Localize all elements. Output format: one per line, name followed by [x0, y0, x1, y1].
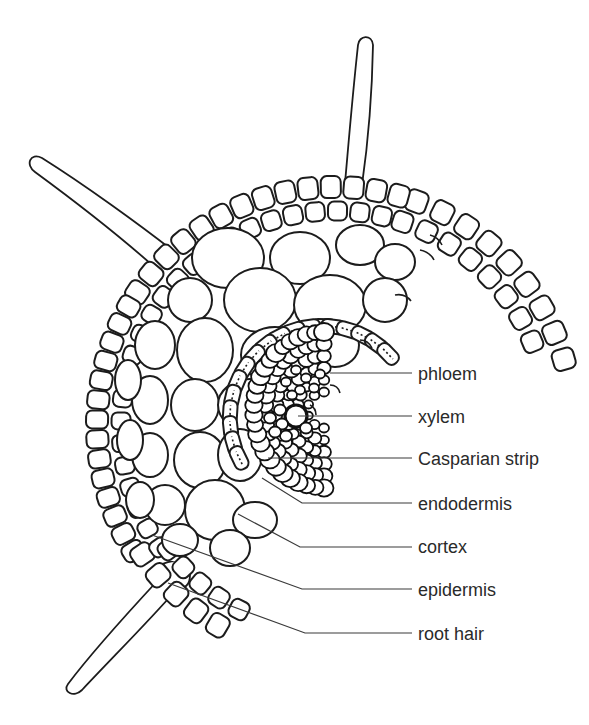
root-hair-top: [345, 37, 373, 185]
label-phloem: phloem: [418, 364, 477, 384]
root-hair-bottom: [66, 561, 190, 694]
label-casparian-strip: Casparian strip: [418, 449, 539, 469]
label-root-hair: root hair: [418, 624, 484, 644]
label-epidermis: epidermis: [418, 580, 496, 600]
labels: phloem xylem Casparian strip endodermis …: [418, 364, 539, 644]
label-endodermis: endodermis: [418, 494, 512, 514]
label-cortex: cortex: [418, 537, 467, 557]
root-cross-section-diagram: phloem xylem Casparian strip endodermis …: [0, 0, 589, 725]
label-xylem: xylem: [418, 407, 465, 427]
